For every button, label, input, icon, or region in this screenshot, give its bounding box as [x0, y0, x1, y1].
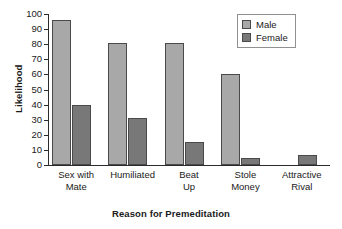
bar-male — [165, 43, 184, 165]
x-tick-label-line: Mate — [48, 181, 104, 193]
x-tick-label: StoleMoney — [217, 169, 273, 192]
bar-group — [161, 14, 217, 165]
bar-male — [108, 43, 127, 165]
x-axis-title: Reason for Premeditation — [0, 208, 342, 219]
y-tick-label: 90 — [31, 24, 42, 34]
y-tick-mark — [44, 165, 48, 166]
y-tick-label: 30 — [31, 115, 42, 125]
y-tick-label: 20 — [31, 130, 42, 140]
bar-female — [185, 142, 204, 165]
bar-group — [104, 14, 160, 165]
bar-group — [48, 14, 104, 165]
legend-label: Female — [256, 33, 288, 43]
x-tick-label-line: Humiliated — [104, 169, 160, 181]
legend-swatch-female — [242, 33, 251, 42]
x-tick-label-line: Rival — [274, 181, 330, 193]
legend-swatch-male — [242, 20, 251, 29]
x-tick-label-line: Stole — [217, 169, 273, 181]
y-axis-title: Likelihood — [14, 39, 24, 139]
bar-female — [241, 158, 260, 165]
bar-female — [298, 155, 317, 165]
y-tick-label: 0 — [37, 160, 42, 170]
x-tick-label-line: Attractive — [274, 169, 330, 181]
legend-item: Female — [242, 31, 288, 44]
legend-label: Male — [256, 20, 277, 30]
x-tick-label: AttractiveRival — [274, 169, 330, 192]
y-tick-label: 70 — [31, 55, 42, 65]
x-tick-label: Humiliated — [104, 169, 160, 181]
x-axis-line — [48, 165, 330, 166]
bar-male — [221, 74, 240, 165]
bar-chart-figure: Likelihood 0102030405060708090100 Sex wi… — [0, 0, 342, 229]
y-tick-label: 50 — [31, 85, 42, 95]
y-tick-label: 100 — [26, 9, 42, 19]
x-tick-label-line: Sex with — [48, 169, 104, 181]
y-tick-label: 10 — [31, 145, 42, 155]
bar-female — [128, 118, 147, 165]
x-tick-label: BeatUp — [161, 169, 217, 192]
bar-male — [52, 20, 71, 165]
chart-legend: MaleFemale — [237, 14, 296, 48]
legend-item: Male — [242, 18, 288, 31]
bar-female — [72, 105, 91, 165]
x-tick-label-line: Money — [217, 181, 273, 193]
y-tick-label: 80 — [31, 39, 42, 49]
x-tick-label: Sex withMate — [48, 169, 104, 192]
y-tick-label: 60 — [31, 70, 42, 80]
x-tick-label-line: Up — [161, 181, 217, 193]
y-tick-label: 40 — [31, 100, 42, 110]
x-tick-label-line: Beat — [161, 169, 217, 181]
